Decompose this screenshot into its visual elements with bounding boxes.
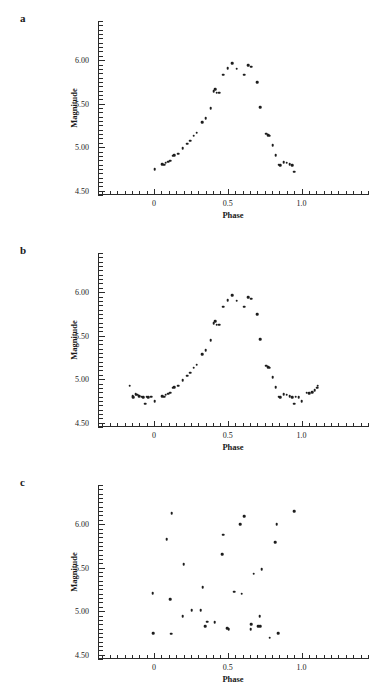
data-point [291,164,294,167]
x-tick [228,421,229,427]
y-tick [98,138,103,139]
x-tick [265,423,266,427]
x-tick [125,423,126,427]
y-tick [98,418,103,419]
y-tick [98,388,103,389]
x-tick [302,189,303,195]
x-tick [279,191,280,195]
y-tick [98,546,103,547]
x-tick [294,655,295,659]
panel-label-c: c [20,476,25,488]
data-point [249,628,252,631]
x-tick [191,191,192,195]
x-tick [169,191,170,195]
data-point [291,396,294,399]
figure-phased-light-curves: a Magnitude Phase 00.51.04.505.005.506.0… [0,0,392,694]
x-tick [309,655,310,659]
x-tick [206,655,207,659]
data-point [260,568,263,571]
data-point [235,68,238,71]
y-tick [98,498,103,499]
y-tick [98,659,103,660]
y-tick [98,559,103,560]
y-tick [98,370,103,371]
y-tick [98,160,103,161]
data-point [277,632,280,635]
data-point [274,386,277,389]
x-tick [287,423,288,427]
y-tick [98,331,103,332]
x-tick [176,655,177,659]
x-tick-label: 0 [152,199,156,208]
x-tick [161,191,162,195]
data-point [227,67,230,70]
y-tick [98,156,103,157]
x-tick [125,191,126,195]
x-tick [361,423,362,427]
data-point [201,586,204,589]
data-point [193,135,196,138]
y-tick [98,56,103,57]
x-tick [154,653,155,659]
y-tick [98,423,105,424]
data-point [269,135,272,138]
x-tick [243,655,244,659]
panel-label-b: b [20,244,26,256]
x-tick [324,191,325,195]
y-tick [98,340,103,341]
y-tick [98,642,103,643]
y-tick [98,537,103,538]
data-point [252,572,255,575]
x-tick [338,655,339,659]
x-tick [220,191,221,195]
y-tick [98,91,103,92]
x-tick [235,423,236,427]
data-point [186,374,189,377]
x-tick [184,423,185,427]
x-tick [361,655,362,659]
data-point [227,299,230,302]
x-tick [110,655,111,659]
x-tick [228,189,229,195]
data-point [132,396,135,399]
y-tick [98,515,103,516]
y-tick [98,253,103,254]
y-tick [98,310,103,311]
data-point [243,305,246,308]
y-tick-label: 6.00 [75,288,89,297]
y-tick [98,607,103,608]
data-point [293,510,296,513]
x-tick [353,191,354,195]
y-tick [98,125,103,126]
data-point [214,320,217,323]
x-tick [147,655,148,659]
data-point [239,523,242,526]
y-tick [98,314,103,315]
x-tick-label: 1.0 [297,431,307,440]
panel-label-a: a [20,12,26,24]
data-point [144,402,147,405]
data-point [206,620,209,623]
x-tick-label: 0 [152,663,156,672]
y-tick [98,104,105,105]
x-tick [154,189,155,195]
y-tick [98,362,103,363]
data-point [256,81,259,84]
data-point [142,396,145,399]
x-tick [302,421,303,427]
y-tick [98,602,103,603]
y-tick [98,620,103,621]
y-tick [98,576,103,577]
data-point [196,131,199,134]
x-tick [338,191,339,195]
data-point [231,62,234,65]
x-tick [206,191,207,195]
x-tick [147,191,148,195]
data-point [210,107,213,110]
x-tick [191,655,192,659]
y-tick [98,520,103,521]
x-tick [316,191,317,195]
data-point [128,384,131,387]
x-tick [353,423,354,427]
x-tick [331,655,332,659]
